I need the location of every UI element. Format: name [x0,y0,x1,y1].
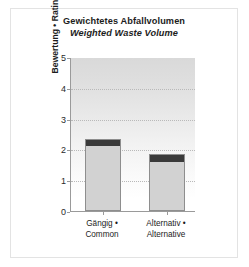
y-tick-label-2: 2 [50,146,66,155]
chart-title-english: Weighted Waste Volume [12,28,236,39]
x-label-alternative-line1: Alternativ • [128,218,204,229]
x-tick-mark-common [103,212,104,215]
bar-common[interactable] [85,139,121,211]
x-label-alternative: Alternativ • Alternative [128,218,204,240]
gridline-3 [71,120,195,121]
bar-alternative-cap [150,155,184,161]
chart-title-block: Gewichtetes Abfallvolumen Weighted Waste… [12,16,236,39]
plot-area [70,58,195,212]
y-tick-label-4: 4 [50,85,66,94]
x-tick-mark-alternative [167,212,168,215]
y-tick-mark-0 [67,212,70,213]
x-axis-labels: Gängig • Common Alternativ • Alternative [70,218,195,248]
bar-alternative[interactable] [149,154,185,211]
x-label-alternative-line2: Alternative [128,229,204,240]
bar-common-cap [86,140,120,146]
gridline-4 [71,89,195,90]
chart-title-german: Gewichtetes Abfallvolumen [12,16,236,27]
y-tick-label-1: 1 [50,177,66,186]
y-tick-label-0: 0 [50,208,66,217]
y-tick-label-3: 3 [50,116,66,125]
y-tick-label-5: 5 [50,54,66,63]
chart-figure: Gewichtetes Abfallvolumen Weighted Waste… [0,0,249,267]
y-axis-ticks: 5 4 3 2 1 0 [48,58,66,212]
